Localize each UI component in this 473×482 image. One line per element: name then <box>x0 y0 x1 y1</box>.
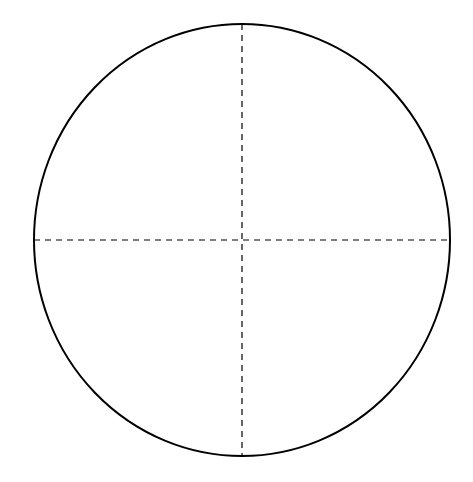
background <box>0 0 473 482</box>
diagram-canvas <box>0 0 473 482</box>
